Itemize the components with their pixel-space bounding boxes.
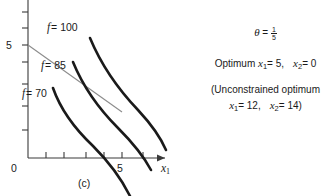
constraint-line — [28, 45, 122, 112]
curve-label-f100-value: = 100 — [51, 21, 78, 33]
annotation-optimum: Optimum x1= 5,x2= 0 — [196, 58, 335, 69]
optimum-prefix: Optimum — [215, 58, 256, 69]
x-tick-label-5: 5 — [117, 163, 123, 174]
curve-label-f85-var: f — [41, 59, 44, 71]
theta-denominator: 5 — [271, 33, 277, 41]
unconstrained-var2: x — [270, 99, 275, 111]
optimum-var2-sub: 2 — [298, 62, 302, 71]
curve-label-f70-value: = 70 — [26, 87, 47, 99]
unconstrained-val1: = 12, — [238, 100, 261, 111]
x-axis-name-sub: 1 — [166, 167, 170, 176]
x-axis-arrowhead — [157, 155, 165, 162]
y-axis-ticks — [22, 12, 28, 130]
unconstrained-var2-sub: 2 — [275, 104, 279, 113]
curve-label-f100-var: f — [47, 21, 50, 33]
figure-container: f = 100 f = 85 f = 70 5 0 5 x1 (c) θ = 1… — [0, 0, 335, 196]
curve-label-f85: f = 85 — [41, 60, 66, 72]
curve-f70 — [53, 88, 130, 196]
optimum-val2: = 0 — [302, 58, 316, 69]
x-axis-ticks — [46, 152, 143, 158]
unconstrained-var1-sub: 1 — [234, 104, 238, 113]
theta-symbol: θ — [254, 26, 259, 38]
curve-label-f100: f = 100 — [47, 22, 78, 34]
y-tick-label-5: 5 — [6, 40, 12, 51]
theta-fraction: 1 5 — [271, 26, 277, 42]
curve-label-f70-var: f — [22, 87, 25, 99]
curve-f100 — [90, 38, 166, 150]
optimum-val1: = 5, — [267, 58, 284, 69]
optimum-var1-sub: 1 — [263, 62, 267, 71]
unconstrained-val2: = 14) — [279, 100, 302, 111]
x-tick-label-0: 0 — [11, 163, 17, 174]
figure-caption: (c) — [78, 178, 90, 189]
theta-numerator: 1 — [271, 26, 277, 33]
annotation-theta: θ = 1 5 — [196, 26, 335, 42]
annotation-unconstrained-head: (Unconstrained optimum — [196, 85, 335, 95]
annotation-unconstrained-values: x1= 12,x2= 14) — [196, 100, 335, 111]
theta-relation: = — [262, 27, 268, 38]
annotation-block: θ = 1 5 Optimum x1= 5,x2= 0 (Unconstrain… — [196, 26, 335, 111]
curve-label-f85-value: = 85 — [45, 59, 66, 71]
curve-label-f70: f = 70 — [22, 88, 47, 100]
x-axis-name: x1 — [161, 163, 170, 175]
